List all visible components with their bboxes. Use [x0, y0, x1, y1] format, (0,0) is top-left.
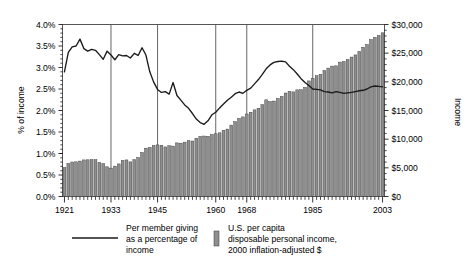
bar	[179, 143, 182, 196]
x-tick-label: 1945	[148, 205, 167, 215]
bar	[203, 136, 206, 196]
x-tick-label: 1921	[55, 205, 74, 215]
left-tick-label: 3.5%	[36, 41, 56, 51]
x-tick-label: 1968	[237, 205, 256, 215]
bar	[191, 141, 194, 196]
bar	[346, 60, 349, 197]
bar	[152, 145, 155, 196]
bar	[292, 92, 295, 197]
income-giving-combo-chart: 0.0%0.5%1.0%1.5%2.0%2.5%3.0%3.5%4.0% $0$…	[0, 0, 466, 271]
bar	[168, 146, 171, 197]
bar	[129, 162, 132, 197]
bar	[335, 66, 338, 197]
bar	[79, 161, 82, 196]
right-tick-label: $30,000	[392, 20, 423, 30]
bar	[207, 136, 210, 196]
bar	[195, 138, 198, 196]
bar	[145, 148, 148, 196]
bar	[148, 147, 151, 196]
bar	[358, 51, 361, 196]
bar	[327, 68, 330, 196]
bar	[125, 160, 128, 197]
bar	[307, 81, 310, 197]
left-tick-label: 0.0%	[36, 192, 56, 202]
bar	[110, 168, 113, 196]
bar	[183, 142, 186, 196]
bar	[156, 145, 159, 197]
bar	[238, 118, 241, 196]
bar	[214, 134, 217, 197]
bar	[160, 145, 163, 196]
bar	[222, 130, 225, 196]
bar	[199, 136, 202, 196]
legend-line-label-2: as a percentage of	[126, 234, 198, 244]
legend-bar-label-1: U.S. per capita	[228, 223, 285, 233]
bar	[288, 91, 291, 196]
bar	[323, 70, 326, 196]
bar	[362, 47, 365, 196]
right-tick-label: $5,000	[392, 163, 419, 173]
left-tick-label: 2.5%	[36, 84, 56, 94]
bar	[94, 160, 97, 197]
left-tick-label: 1.0%	[36, 149, 56, 159]
bar	[245, 114, 248, 197]
x-tick-label: 2003	[373, 205, 392, 215]
bar	[253, 110, 256, 197]
bar	[381, 33, 384, 197]
bar	[338, 62, 341, 196]
left-tick-label: 3.0%	[36, 63, 56, 73]
bar	[242, 117, 245, 197]
bar	[350, 57, 353, 196]
bar	[187, 141, 190, 197]
right-axis-title: Income	[453, 98, 463, 126]
bar	[265, 100, 268, 197]
bar	[311, 78, 314, 196]
left-axis-title: % of income	[16, 86, 26, 134]
bar	[366, 45, 369, 197]
bar	[257, 108, 260, 196]
bar	[261, 105, 264, 197]
bar	[319, 74, 322, 196]
bar	[71, 162, 74, 197]
bar	[304, 87, 307, 196]
bar	[373, 37, 376, 196]
x-tick-label: 1960	[206, 205, 225, 215]
bar	[113, 166, 116, 196]
bar	[342, 62, 345, 197]
bar	[296, 90, 299, 197]
bar	[218, 133, 221, 197]
right-tick-label: $15,000	[392, 106, 423, 116]
bar	[377, 36, 380, 197]
bar	[249, 112, 252, 196]
x-tick-label: 1933	[101, 205, 120, 215]
bar	[106, 167, 109, 197]
bar	[370, 40, 373, 197]
bar	[133, 160, 136, 197]
bar	[234, 122, 237, 197]
bar	[141, 153, 144, 197]
right-tick-label: $25,000	[392, 48, 423, 58]
bar	[117, 164, 120, 197]
left-axis-labels: 0.0%0.5%1.0%1.5%2.0%2.5%3.0%3.5%4.0%	[36, 20, 56, 202]
left-tick-label: 4.0%	[36, 20, 56, 30]
bar	[172, 146, 175, 196]
bar	[86, 160, 89, 197]
bar	[230, 125, 233, 196]
bar	[331, 66, 334, 196]
x-tick-label: 1985	[303, 205, 322, 215]
chart-container: 0.0%0.5%1.0%1.5%2.0%2.5%3.0%3.5%4.0% $0$…	[0, 0, 466, 271]
bar	[121, 160, 124, 196]
legend-bar-label-3: 2000 inflation-adjusted $	[228, 245, 322, 255]
left-tick-label: 0.5%	[36, 170, 56, 180]
bar	[82, 160, 85, 197]
bar	[280, 96, 283, 196]
bar	[210, 135, 213, 197]
bar	[102, 164, 105, 197]
bar	[226, 129, 229, 196]
legend-bar-swatch	[214, 231, 219, 246]
bar	[284, 93, 287, 196]
bar	[315, 76, 318, 197]
bar	[276, 99, 279, 197]
bar	[300, 90, 303, 197]
legend-bar-label-2: disposable personal income,	[228, 234, 337, 244]
